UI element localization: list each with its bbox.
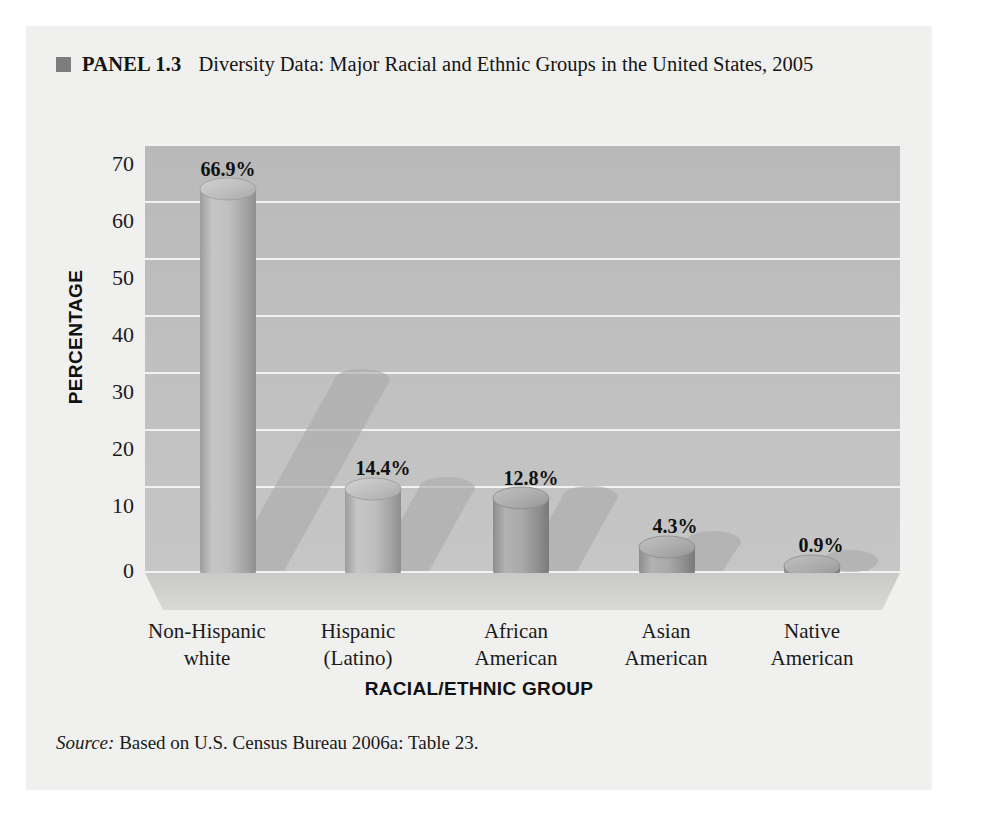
x-category-line: American bbox=[436, 645, 596, 672]
bar-hispanic-latino bbox=[345, 478, 401, 582]
plot-floor bbox=[145, 573, 900, 610]
x-category-label: Non-Hispanic white bbox=[112, 618, 302, 672]
x-category-line: African bbox=[436, 618, 596, 645]
source-text: Based on U.S. Census Bureau 2006a: Table… bbox=[114, 732, 478, 753]
x-category-line: Hispanic bbox=[278, 618, 438, 645]
x-category-label: Native American bbox=[732, 618, 892, 672]
bar-value-label: 12.8% bbox=[504, 467, 559, 490]
bar-value-label: 66.9% bbox=[201, 158, 256, 181]
bar-value-label: 14.4% bbox=[356, 457, 411, 480]
y-axis-title: PERCENTAGE bbox=[65, 227, 87, 447]
x-category-label: Asian American bbox=[586, 618, 746, 672]
x-category-line: Native bbox=[732, 618, 892, 645]
figure-page: PANEL 1.3Diversity Data: Major Racial an… bbox=[0, 0, 981, 835]
x-category-line: American bbox=[732, 645, 892, 672]
y-tick-label: 0 bbox=[74, 560, 134, 582]
plot-area: 66.9% 14.4% 12.8% 4.3% 0.9% bbox=[145, 144, 900, 573]
bar-value-label: 0.9% bbox=[799, 534, 844, 557]
x-category-line: American bbox=[586, 645, 746, 672]
x-axis-title: RACIAL/ETHNIC GROUP bbox=[26, 678, 932, 700]
y-tick-label: 10 bbox=[74, 495, 134, 517]
figure-panel: PANEL 1.3Diversity Data: Major Racial an… bbox=[26, 26, 932, 790]
bar-chart: 66.9% 14.4% 12.8% 4.3% 0.9% 70 60 bbox=[26, 26, 932, 790]
bar-cylinders bbox=[145, 144, 900, 604]
x-category-label: African American bbox=[436, 618, 596, 672]
x-category-line: Non-Hispanic bbox=[112, 618, 302, 645]
source-note: Source: Based on U.S. Census Bureau 2006… bbox=[56, 732, 478, 754]
x-category-line: white bbox=[112, 645, 302, 672]
bar-value-label: 4.3% bbox=[653, 515, 698, 538]
bar-non-hispanic-white bbox=[200, 178, 256, 582]
bar-african-american bbox=[493, 487, 549, 582]
source-prefix: Source: bbox=[56, 732, 114, 753]
x-category-label: Hispanic (Latino) bbox=[278, 618, 438, 672]
x-category-line: (Latino) bbox=[278, 645, 438, 672]
x-category-line: Asian bbox=[586, 618, 746, 645]
y-tick-label: 70 bbox=[74, 153, 134, 175]
